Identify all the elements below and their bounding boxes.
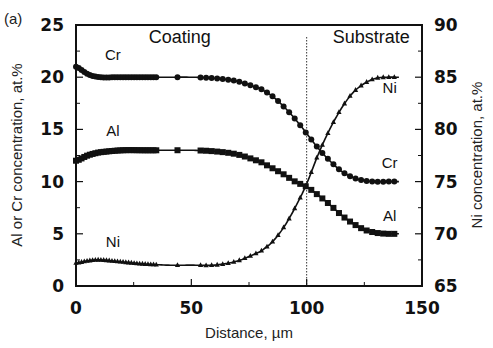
annotation-al: Al xyxy=(106,122,119,139)
annotation-ni: Ni xyxy=(383,79,397,96)
annotation-substrate: Substrate xyxy=(333,27,410,47)
left-y-axis-label: Al or Cr concentration, at.% xyxy=(8,63,25,246)
concentration-profile-chart: (a) 0501001500510152025657075808590 Coat… xyxy=(0,0,493,348)
markers-ni xyxy=(73,74,397,267)
right-y-tick-label: 85 xyxy=(434,67,458,87)
left-y-tick-label: 20 xyxy=(40,67,64,87)
annotation-cr: Cr xyxy=(382,154,398,171)
x-tick-label: 0 xyxy=(70,298,82,318)
right-y-tick-label: 75 xyxy=(434,172,458,192)
left-y-tick-label: 25 xyxy=(40,15,64,35)
annotation-cr: Cr xyxy=(105,46,121,63)
x-axis-label: Distance, µm xyxy=(205,324,293,341)
left-y-tick-label: 15 xyxy=(40,119,64,139)
left-y-tick-label: 10 xyxy=(40,172,64,192)
right-y-tick-label: 80 xyxy=(434,119,458,139)
annotation-al: Al xyxy=(383,207,396,224)
x-tick-label: 100 xyxy=(289,298,325,318)
right-y-axis-label: Ni concentration, at.% xyxy=(468,82,485,229)
panel-label: (a) xyxy=(4,10,22,27)
markers-cr xyxy=(73,64,397,185)
left-y-tick-label: 5 xyxy=(52,224,64,244)
left-y-tick-label: 0 xyxy=(52,276,64,296)
x-tick-label: 50 xyxy=(179,298,203,318)
plot-area xyxy=(73,37,399,286)
right-y-tick-label: 70 xyxy=(434,224,458,244)
curve-ni xyxy=(76,77,399,265)
annotation-coating: Coating xyxy=(149,27,211,47)
annotation-ni: Ni xyxy=(106,233,120,250)
annotations: CoatingSubstrateCrAlNiNiCrAl xyxy=(105,27,410,251)
markers-al xyxy=(73,147,397,237)
right-y-tick-label: 90 xyxy=(434,15,458,35)
x-tick-label: 150 xyxy=(404,298,440,318)
right-y-tick-label: 65 xyxy=(434,276,458,296)
